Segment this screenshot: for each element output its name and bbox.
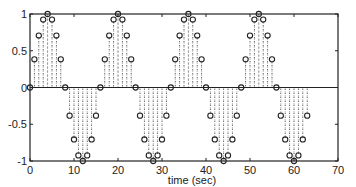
y-tick-label: 0	[21, 82, 27, 94]
x-tick-label: 50	[244, 164, 256, 176]
x-tick-label: 70	[332, 164, 344, 176]
y-tick-label: -1	[17, 155, 27, 167]
x-tick-label: 0	[27, 164, 33, 176]
y-tick-label: 1	[21, 8, 27, 20]
y-tick-label: -0.5	[8, 118, 27, 130]
x-tick-label: 20	[112, 164, 124, 176]
x-tick-label: 30	[156, 164, 168, 176]
y-tick-label: 0.5	[12, 45, 27, 57]
stem-chart: 010203040506070 -1-0.500.51 time (sec)	[0, 0, 356, 187]
x-axis-label: time (sec)	[168, 174, 216, 186]
x-tick-label: 60	[288, 164, 300, 176]
x-axis-ticks: 010203040506070	[27, 14, 344, 176]
x-tick-label: 10	[68, 164, 80, 176]
